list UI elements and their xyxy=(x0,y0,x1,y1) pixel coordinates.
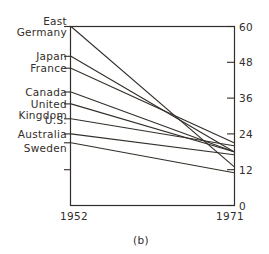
y-tick-label-48: 48 xyxy=(239,57,253,67)
series-label-sweden: Sweden xyxy=(24,143,67,153)
series-label-canada-text: Canada xyxy=(25,87,67,97)
y-axis-ticks-right xyxy=(227,27,235,206)
series-label-japan: Japan xyxy=(36,51,67,61)
series-label-australia: Australia xyxy=(18,129,67,139)
y-tick-label-36: 36 xyxy=(239,93,253,103)
series-label-canada: Canada xyxy=(25,87,67,97)
figure-caption: (b) xyxy=(133,235,149,245)
series-lines xyxy=(71,27,234,173)
series-label-australia-text: Australia xyxy=(18,129,67,139)
series-line-canada xyxy=(71,92,234,152)
series-line-us xyxy=(71,119,234,146)
x-tick-label-1952: 1952 xyxy=(60,211,88,221)
series-label-france-text: France xyxy=(30,63,67,73)
y-tick-label-12: 12 xyxy=(239,165,253,175)
plot-frame xyxy=(71,27,235,206)
series-label-us-text: U.S. xyxy=(45,115,67,125)
x-tick-label-1971: 1971 xyxy=(216,211,244,221)
series-label-east-germany: East Germany xyxy=(17,16,67,38)
series-line-france xyxy=(71,68,234,143)
series-line-sweden xyxy=(71,143,234,173)
series-label-sweden-text: Sweden xyxy=(24,143,67,153)
series-label-france: France xyxy=(30,63,67,73)
series-label-japan-text: Japan xyxy=(36,51,67,61)
y-tick-label-24: 24 xyxy=(239,129,253,139)
series-line-east-germany xyxy=(71,27,234,167)
y-tick-label-60: 60 xyxy=(239,22,253,32)
y-tick-label-0: 0 xyxy=(239,201,246,211)
series-label-east-germany-line2: Germany xyxy=(17,27,67,38)
series-label-us: U.S. xyxy=(45,115,67,125)
figure-panel-b: East Germany Japan France Canada United … xyxy=(0,0,269,254)
